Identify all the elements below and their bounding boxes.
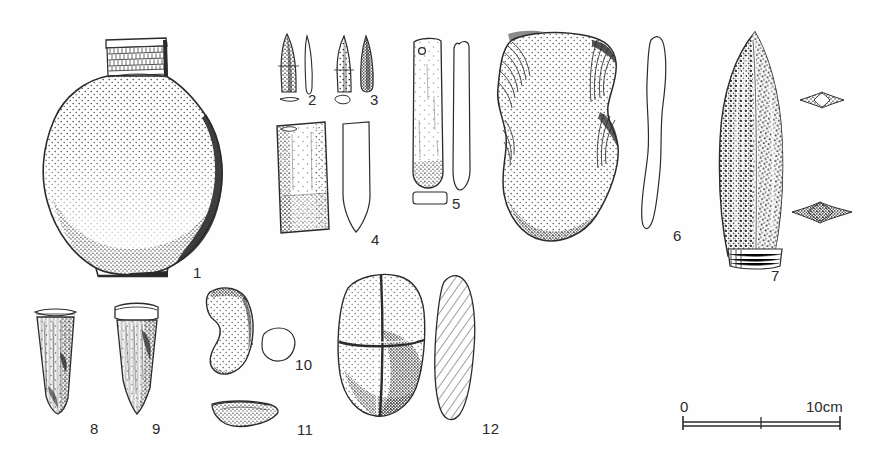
figure-9-bone-point [115, 303, 158, 414]
artifact-plate: 1 2 3 4 5 6 7 8 9 10 11 12 0 10cm [0, 0, 892, 460]
scale-bar-left-label: 0 [680, 399, 688, 414]
figure-7-polished-adze [719, 32, 852, 269]
figure-12-split-pebble [338, 274, 475, 420]
figure-label-2: 2 [308, 92, 317, 107]
figure-label-8: 8 [90, 421, 99, 436]
figure-11-curved-fragment [212, 401, 278, 426]
figure-10-crescent-object [207, 288, 295, 374]
figure-label-1: 1 [193, 265, 202, 280]
figure-label-12: 12 [482, 421, 499, 436]
figure-layer [0, 0, 892, 460]
figure-label-11: 11 [297, 422, 313, 437]
figure-label-4: 4 [371, 232, 380, 247]
scale-bar-right-label: 10cm [806, 399, 843, 414]
figure-label-6: 6 [673, 228, 682, 243]
figure-label-5: 5 [452, 196, 461, 211]
figure-8-bone-point [35, 309, 76, 414]
scale-bar-graphic [683, 416, 840, 430]
figure-label-10: 10 [295, 357, 312, 372]
figure-label-7: 7 [771, 268, 780, 283]
figure-label-9: 9 [152, 421, 161, 436]
figure-1-globular-jar [43, 38, 223, 277]
figure-label-3: 3 [370, 92, 379, 107]
figure-6-waisted-flaked-axe [498, 31, 666, 241]
figure-5-perforated-pendant [413, 38, 470, 204]
figure-4-stone-adze [277, 122, 370, 233]
figure-3-bone-point [334, 36, 373, 104]
